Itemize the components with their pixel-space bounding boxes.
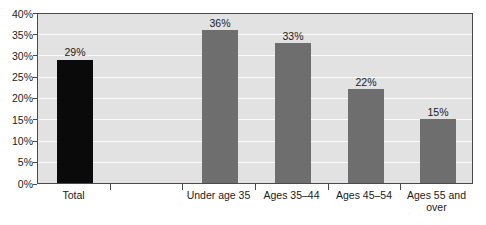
- y-tick-mark: [33, 184, 37, 185]
- gridline: [38, 98, 472, 99]
- y-tick-label: 30%: [0, 51, 33, 62]
- bar-value-label: 36%: [202, 18, 238, 29]
- bar-ages-35-44[interactable]: [275, 43, 311, 183]
- x-tick-label-ages-45-54: Ages 45–54: [328, 190, 400, 202]
- y-axis-labels: 40% 35% 30% 25% 20% 15% 10% 5% 0%: [0, 0, 33, 225]
- bar-ages-45-54[interactable]: [348, 89, 384, 183]
- gridline: [38, 34, 472, 35]
- y-tick-label: 10%: [0, 136, 33, 147]
- gridline: [38, 77, 472, 78]
- x-tick-label-total: Total: [37, 190, 110, 202]
- x-tick-label-ages-35-44: Ages 35–44: [255, 190, 328, 202]
- y-tick-label: 20%: [0, 93, 33, 104]
- y-tick-label: 0%: [0, 179, 33, 190]
- y-tick-label: 15%: [0, 115, 33, 126]
- gridline: [38, 141, 472, 142]
- x-tick-label-ages-55-over: Ages 55 and over: [400, 190, 473, 213]
- bar-value-label: 22%: [348, 77, 384, 88]
- chart-title-cropped: [40, 0, 440, 1]
- y-tick-label: 5%: [0, 157, 33, 168]
- x-tick-mark: [110, 184, 111, 190]
- gridline: [38, 55, 472, 56]
- bar-under-age-35[interactable]: [202, 30, 238, 183]
- bar-value-label: 15%: [420, 107, 456, 118]
- gridline: [38, 162, 472, 163]
- y-tick-label: 35%: [0, 30, 33, 41]
- x-tick-label-under-age-35: Under age 35: [182, 190, 255, 202]
- y-tick-label: 40%: [0, 9, 33, 20]
- bar-ages-55-over[interactable]: [420, 119, 456, 183]
- bar-total[interactable]: [57, 60, 93, 183]
- bar-value-label: 33%: [275, 31, 311, 42]
- bar-value-label: 29%: [57, 47, 93, 58]
- bar-chart: 40% 35% 30% 25% 20% 15% 10% 5% 0%: [0, 0, 486, 225]
- gridline: [38, 119, 472, 120]
- y-tick-label: 25%: [0, 72, 33, 83]
- plot-area: 29% 36% 33% 22% 15%: [37, 13, 473, 184]
